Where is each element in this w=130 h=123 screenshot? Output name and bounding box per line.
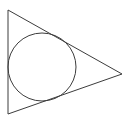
geometry-figure: [0, 0, 130, 123]
figure-background: [0, 0, 130, 123]
